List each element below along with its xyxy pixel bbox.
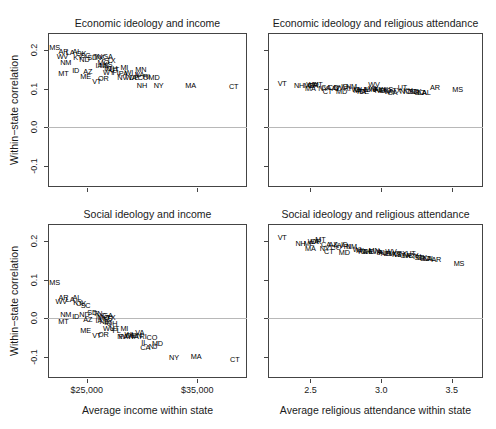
data-point-label: MA [305,245,316,252]
data-point-label: NY [169,355,179,362]
data-point-label: MT [58,70,68,77]
y-axis-tick [44,280,48,281]
x-axis-tick [87,188,88,192]
y-axis-tick [264,127,268,128]
y-axis-tick-label: 0.1 [29,83,39,96]
data-point-label: AR [430,84,440,91]
y-axis-tick-label: 0.0 [29,312,39,325]
y-axis-tick-label: 0.0 [29,121,39,134]
data-point-label: MS [454,261,465,268]
data-point-label: ID [72,314,79,321]
x-axis-title-religion: Average religious attendance within stat… [268,404,483,416]
y-axis-tick-label: -0.1 [29,158,39,174]
panel-title: Economic ideology and religious attendan… [268,17,483,29]
y-axis-tick-label: 0.1 [29,274,39,287]
data-point-label: MA [305,86,316,93]
zero-reference-line [268,127,483,128]
y-axis-tick-label: 0.2 [29,235,39,248]
zero-reference-line [48,127,247,128]
y-axis-tick [264,318,268,319]
y-axis-tick [264,357,268,358]
y-axis-title: Within−state correlation [8,246,20,356]
data-point-label: NY [154,82,164,89]
data-point-label: AR [431,256,441,263]
data-point-label: ID [72,67,79,74]
data-point-label: AZ [83,317,92,324]
x-axis-tick-label: $25,000 [70,385,103,395]
chart-panel-top-left: MSARLAALWVOKKYSCNDSDTNNCGANMTXMOKSIANEIN… [48,33,247,187]
data-point-label: MA [191,353,202,360]
y-axis-tick [264,166,268,167]
x-axis-tick [452,379,453,383]
zero-reference-line [268,318,483,319]
y-axis-tick [44,357,48,358]
data-point-label: VT [278,235,287,242]
data-point-label: ME [80,327,91,334]
y-axis-tick [44,166,48,167]
data-point-label: MS [49,279,60,286]
data-point-label: CT [323,88,332,95]
x-axis-tick-label: 3.5 [446,385,459,395]
panel-title: Economic ideology and income [48,17,247,29]
data-point-label: CT [324,248,333,255]
panel-title: Social ideology and income [48,208,247,220]
y-axis-tick [264,241,268,242]
x-axis-tick [197,379,198,383]
data-point-label: NH [294,82,304,89]
x-axis-tick [452,188,453,192]
y-axis-tick [44,127,48,128]
data-point-label: CT [230,356,239,363]
data-point-label: VT [92,78,101,85]
x-axis-tick [310,379,311,383]
chart-panel-top-right: VTNHMEWAORMTMACANYCOAZNVIDNMCTRIMDWIOHMI… [268,33,483,187]
figure-root: MSARLAALWVOKKYSCNDSDTNNCGANMTXMOKSIANEIN… [0,0,496,429]
x-axis-tick-label: 3.0 [375,385,388,395]
chart-panel-bottom-right: VTNHMEWAORMTMACAAZNVIDNYCONMRICTMDWIMIPA… [268,224,483,378]
data-point-label: CT [229,83,238,90]
x-axis-tick [87,379,88,383]
x-axis-tick-label: 2.5 [304,385,317,395]
plot-area: VTNHMEWAORMTMACANYCOAZNVIDNMCTRIMDWIOHMI… [268,33,483,187]
data-point-label: MS [452,86,463,93]
data-point-label: MT [58,318,68,325]
data-point-label: MD [336,88,347,95]
data-point-label: VT [278,81,287,88]
y-axis-tick [44,318,48,319]
data-point-label: ME [80,74,91,81]
x-axis-title-income: Average income within state [48,404,247,416]
plot-area: MSARLAALWVOKKYSCNDSDTNNCGANMTXMOKSIANEIN… [48,33,247,187]
data-point-label: NJ [149,343,158,350]
y-axis-tick [44,241,48,242]
data-point-label: NH [137,82,147,89]
panel-title: Social ideology and religious attendance [268,208,483,220]
y-axis-tick [44,89,48,90]
x-axis-tick-label: $35,000 [181,385,214,395]
data-point-label: OR [98,332,109,339]
y-axis-tick-label: -0.1 [29,349,39,365]
data-point-label: MD [339,249,350,256]
y-axis-tick-label: 0.2 [29,44,39,57]
x-axis-tick [197,188,198,192]
x-axis-tick [381,188,382,192]
y-axis-tick [264,50,268,51]
data-point-label: WA [128,333,139,340]
y-axis-tick [44,50,48,51]
plot-area: VTNHMEWAORMTMACAAZNVIDNYCONMRICTMDWIMIPA… [268,224,483,378]
data-point-label: MA [185,82,196,89]
y-axis-tick [264,89,268,90]
data-point-label: NM [60,59,71,66]
x-axis-tick [381,379,382,383]
y-axis-tick [264,280,268,281]
x-axis-tick [310,188,311,192]
y-axis-title: Within−state correlation [8,55,20,165]
plot-area: MSARWVLAALKYOKSCNMMTIDNDSDTNNCGAAZMOKSTX… [48,224,247,378]
chart-panel-bottom-left: MSARWVLAALKYOKSCNMMTIDNDSDTNNCGAAZMOKSTX… [48,224,247,378]
